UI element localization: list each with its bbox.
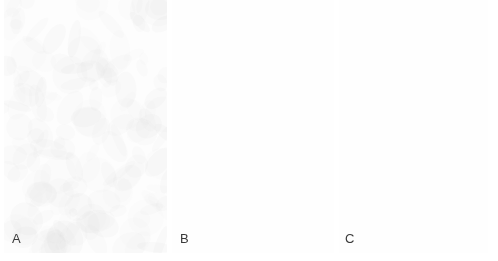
panel-label-c: C (345, 232, 354, 245)
panel-b-image (172, 0, 334, 253)
panel-a-image (4, 0, 167, 253)
panel-c (339, 0, 488, 253)
panel-label-b: B (180, 232, 189, 245)
panel-a (4, 0, 167, 253)
panel-b (172, 0, 334, 253)
panel-c-image (339, 0, 488, 253)
micrograph-figure: A B C (0, 0, 498, 261)
panel-label-a: A (12, 232, 21, 245)
